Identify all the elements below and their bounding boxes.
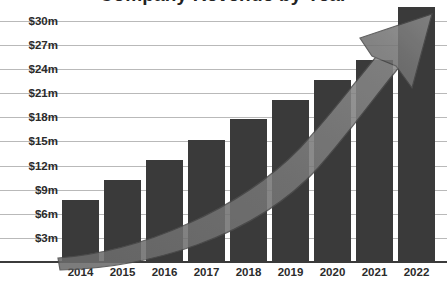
y-tick-label-24m: $24m xyxy=(6,63,58,75)
x-tick-label-2016: 2016 xyxy=(146,266,183,278)
bar-2022 xyxy=(398,7,435,262)
y-tick-label-6m: $6m xyxy=(6,208,58,220)
x-tick-label-2021: 2021 xyxy=(356,266,393,278)
bar-column-2016 xyxy=(146,0,183,262)
bar-column-2019 xyxy=(272,0,309,262)
x-tick-label-2015: 2015 xyxy=(104,266,141,278)
y-tick-label-3m: $3m xyxy=(6,232,58,244)
bar-column-2017 xyxy=(188,0,225,262)
y-tick-label-21m: $21m xyxy=(6,87,58,99)
bar-column-2020 xyxy=(314,0,351,262)
bar-2016 xyxy=(146,160,183,262)
bars-group xyxy=(61,0,439,262)
y-tick-label-18m: $18m xyxy=(6,111,58,123)
bar-2015 xyxy=(104,180,141,262)
y-tick-label-12m: $12m xyxy=(6,160,58,172)
x-tick-label-2022: 2022 xyxy=(398,266,435,278)
bar-2020 xyxy=(314,80,351,262)
bar-column-2018 xyxy=(230,0,267,262)
y-tick-label-15m: $15m xyxy=(6,135,58,147)
bar-column-2015 xyxy=(104,0,141,262)
bar-2018 xyxy=(230,119,267,262)
bar-2017 xyxy=(188,140,225,262)
x-tick-label-2014: 2014 xyxy=(62,266,99,278)
bar-2014 xyxy=(62,200,99,262)
y-tick-label-30m: $30m xyxy=(6,15,58,27)
y-tick-label-9m: $9m xyxy=(6,184,58,196)
bar-column-2014 xyxy=(62,0,99,262)
bar-column-2022 xyxy=(398,0,435,262)
bar-chart: Company Revenue by Year $30m $27m $24m $… xyxy=(0,0,447,298)
x-tick-label-2020: 2020 xyxy=(314,266,351,278)
x-tick-label-2018: 2018 xyxy=(230,266,267,278)
bar-2021 xyxy=(356,60,393,262)
y-tick-label-27m: $27m xyxy=(6,39,58,51)
x-tick-label-2019: 2019 xyxy=(272,266,309,278)
bar-2019 xyxy=(272,100,309,262)
bar-column-2021 xyxy=(356,0,393,262)
x-tick-label-2017: 2017 xyxy=(188,266,225,278)
